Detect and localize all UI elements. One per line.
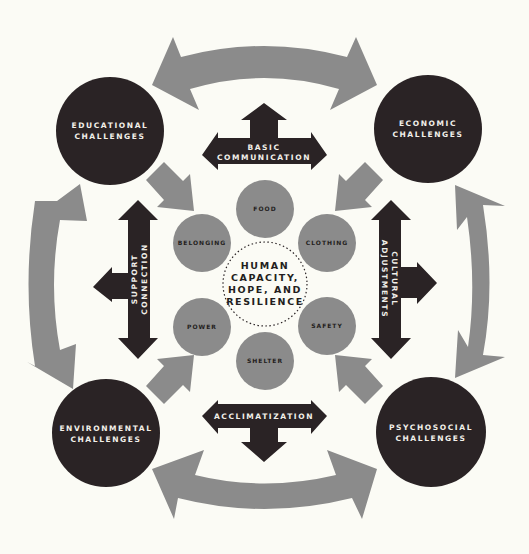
circle-educational bbox=[56, 77, 164, 185]
center-line-1: HUMAN bbox=[241, 260, 289, 271]
response-arrow-bottom bbox=[202, 400, 327, 462]
circle-psychosocial bbox=[376, 377, 486, 487]
center-line-4: RESILIENCE bbox=[226, 296, 304, 307]
arrow-environmental-to-needs bbox=[146, 355, 194, 404]
label-connection: CONNECTION bbox=[140, 243, 149, 315]
label-educational-1: EDUCATIONAL bbox=[72, 121, 149, 130]
label-acclimatization: ACCLIMATIZATION bbox=[214, 412, 314, 421]
center-line-2: CAPACITY, bbox=[231, 272, 299, 283]
label-power: POWER bbox=[187, 323, 217, 330]
curved-arrow-top bbox=[152, 37, 377, 110]
center-line-3: HOPE, AND bbox=[228, 284, 302, 295]
label-clothing: CLOTHING bbox=[306, 239, 348, 246]
label-psychosocial-2: CHALLENGES bbox=[395, 434, 466, 443]
label-communication: COMMUNICATION bbox=[217, 153, 311, 162]
label-psychosocial-1: PSYCHOSOCIAL bbox=[389, 423, 473, 432]
label-adjustments: ADJUSTMENTS bbox=[380, 240, 389, 318]
label-educational-2: CHALLENGES bbox=[74, 132, 145, 141]
arrow-psychosocial-to-needs bbox=[335, 355, 383, 404]
diagram-canvas: HUMAN CAPACITY, HOPE, AND RESILIENCE FOO… bbox=[0, 0, 529, 554]
curved-arrow-right bbox=[455, 185, 505, 378]
label-shelter: SHELTER bbox=[247, 357, 283, 364]
label-economic-1: ECONOMIC bbox=[399, 119, 457, 128]
arrow-educational-to-needs bbox=[146, 162, 194, 211]
label-environmental-2: CHALLENGES bbox=[70, 435, 141, 444]
label-environmental-1: ENVIRONMENTAL bbox=[59, 424, 152, 433]
label-economic-2: CHALLENGES bbox=[392, 130, 463, 139]
label-support: SUPPORT bbox=[130, 254, 139, 305]
arrow-economic-to-needs bbox=[335, 162, 383, 211]
curved-arrow-left bbox=[27, 184, 87, 389]
circle-economic bbox=[374, 75, 482, 183]
circle-environmental bbox=[52, 379, 160, 487]
label-basic: BASIC bbox=[247, 143, 280, 152]
label-safety: SAFETY bbox=[311, 322, 343, 329]
label-cultural: CULTURAL bbox=[390, 251, 399, 307]
label-belonging: BELONGING bbox=[178, 239, 227, 246]
label-food: FOOD bbox=[253, 205, 276, 212]
